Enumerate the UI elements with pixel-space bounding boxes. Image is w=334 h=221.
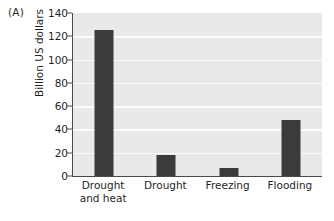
bar[interactable] (95, 30, 114, 176)
y-tick-label: 20 (55, 147, 68, 159)
y-tick-label: 120 (48, 30, 68, 42)
y-tick-label: 40 (55, 123, 68, 135)
x-category-label-line: Flooding (268, 179, 313, 191)
bar[interactable] (157, 155, 176, 176)
y-tick-label: 60 (55, 100, 68, 112)
x-category-label: Flooding (268, 179, 313, 192)
x-category-label-line: Drought (144, 179, 187, 191)
x-category-label: Droughtand heat (80, 179, 127, 204)
x-category-label-line: and heat (80, 192, 127, 205)
x-category-label: Freezing (206, 179, 250, 192)
x-category-label-line: Drought (82, 179, 125, 191)
bar[interactable] (281, 120, 300, 176)
x-axis-category-labels: Droughtand heatDroughtFreezingFlooding (72, 179, 321, 219)
bar-series (73, 13, 322, 176)
x-category-label-line: Freezing (206, 179, 250, 191)
chart-screenshot: { "panel": { "label": "(A)" }, "colors":… (0, 0, 334, 221)
y-axis-tick-labels: 020406080100120140 (44, 13, 68, 176)
y-tick-label: 80 (55, 77, 68, 89)
y-tick-label: 100 (48, 54, 68, 66)
y-tick-label: 140 (48, 7, 68, 19)
plot-area (72, 13, 322, 177)
x-category-label: Drought (144, 179, 187, 192)
panel-label: (A) (8, 6, 24, 18)
bar[interactable] (219, 168, 238, 176)
